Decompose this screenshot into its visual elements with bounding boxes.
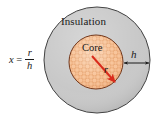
formula-fraction: r h <box>25 47 34 71</box>
insulation-label: Insulation <box>61 16 106 27</box>
core-label: Core <box>82 43 102 54</box>
formula-variable: x <box>9 54 14 65</box>
radius-label: r <box>104 65 108 75</box>
formula-numerator: r <box>26 47 34 59</box>
formula-equals: = <box>16 54 22 65</box>
thickness-label: h <box>131 49 137 60</box>
ratio-formula: x = r h <box>9 47 34 71</box>
insulated-core-diagram: x = r h Insulation Core h r <box>0 0 158 124</box>
formula-denominator: h <box>25 60 34 72</box>
